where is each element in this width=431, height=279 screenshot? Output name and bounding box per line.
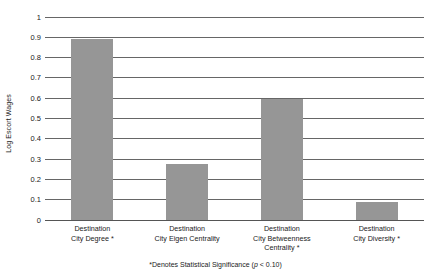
y-tick-label: 0.5: [1, 114, 45, 123]
category-label: DestinationCity Eigen Centrality: [140, 224, 235, 253]
y-tick-label: 1: [1, 12, 45, 21]
bars-layer: [45, 17, 424, 220]
category-label-line: Destination: [47, 224, 138, 234]
category-label: DestinationCity Diversity *: [329, 224, 424, 253]
category-label-line: City Eigen Centrality: [142, 234, 233, 244]
category-axis: DestinationCity Degree *DestinationCity …: [45, 224, 424, 253]
category-label-line: City Diversity *: [331, 234, 422, 244]
y-tick-label: 0.2: [1, 174, 45, 183]
y-tick-label: 0.6: [1, 93, 45, 102]
y-tick-label: 0: [1, 215, 45, 224]
category-label-line: Centrality *: [237, 243, 328, 253]
footnote-suffix: < 0.10): [258, 261, 282, 268]
bar-chart: Log Escort Wages 00.10.20.30.40.50.60.70…: [0, 0, 431, 279]
category-label-line: Destination: [237, 224, 328, 234]
bar-slot: [140, 17, 235, 220]
category-label: DestinationCity Degree *: [45, 224, 140, 253]
bar: [356, 202, 398, 220]
category-label-line: Destination: [142, 224, 233, 234]
y-tick-label: 0.4: [1, 134, 45, 143]
bar-slot: [329, 17, 424, 220]
category-label-line: Destination: [331, 224, 422, 234]
bar-slot: [45, 17, 140, 220]
bar: [261, 99, 303, 220]
bar: [71, 39, 113, 220]
y-tick-label: 0.8: [1, 53, 45, 62]
bar: [166, 164, 208, 220]
category-label-line: City Betweenness: [237, 234, 328, 244]
category-label-line: City Degree *: [47, 234, 138, 244]
y-axis-title-label: Log Escort Wages: [5, 94, 12, 153]
y-tick-label: 0.9: [1, 32, 45, 41]
y-tick-label: 0.1: [1, 195, 45, 204]
footnote-prefix: *Denotes Statistical Significance (: [149, 261, 254, 268]
chart-footnote: *Denotes Statistical Significance (p < 0…: [0, 261, 431, 268]
category-label: DestinationCity BetweennessCentrality *: [235, 224, 330, 253]
y-tick-label: 0.3: [1, 154, 45, 163]
y-tick-label: 0.7: [1, 73, 45, 82]
bar-slot: [235, 17, 330, 220]
